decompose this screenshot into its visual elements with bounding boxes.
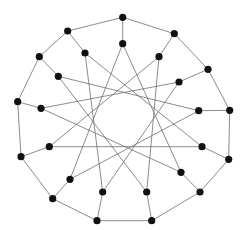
outer-node (93, 217, 100, 224)
nodes-layer (14, 14, 233, 225)
spoke-edge (97, 192, 103, 221)
outer-edge (174, 34, 208, 70)
spoke-edge (159, 34, 174, 57)
inner-node (177, 169, 184, 176)
outer-edge (152, 192, 200, 221)
outer-node (119, 14, 126, 21)
inner-star-edge (41, 108, 181, 172)
spoke-edge (202, 147, 229, 160)
outer-edge (208, 69, 230, 110)
spoke-edge (53, 179, 70, 198)
outer-node (226, 107, 233, 114)
inner-node (99, 188, 106, 195)
outer-node (148, 217, 155, 224)
outer-edge (200, 159, 229, 192)
outer-edge (39, 31, 67, 57)
outer-edge (68, 17, 123, 31)
outer-node (196, 188, 203, 195)
spoke-edge (181, 172, 200, 192)
outer-node (64, 27, 71, 34)
outer-node (171, 30, 178, 37)
spoke-edge (18, 102, 41, 109)
inner-node (66, 176, 73, 183)
inner-star-edge (147, 57, 159, 192)
inner-star-edge (103, 82, 179, 192)
outer-node (14, 98, 21, 105)
inner-star-edge (41, 82, 179, 108)
outer-edge (123, 17, 175, 33)
inner-star-edge (70, 44, 123, 180)
outer-edge (18, 102, 21, 157)
inner-node (119, 40, 126, 47)
inner-node (81, 49, 88, 56)
spoke-edge (179, 69, 208, 82)
inner-node (198, 143, 205, 150)
outer-node (49, 195, 56, 202)
outer-node (36, 53, 43, 60)
outer-edge (53, 199, 97, 221)
inner-node (46, 143, 53, 150)
inner-node (195, 107, 202, 114)
inner-node (175, 78, 182, 85)
spoke-edge (68, 31, 85, 53)
outer-node (17, 153, 24, 160)
graph-diagram (0, 0, 247, 230)
spoke-edge (21, 147, 49, 157)
outer-node (225, 156, 232, 163)
spoke-edge (39, 57, 58, 77)
outer-node (204, 66, 211, 73)
outer-edge (18, 57, 40, 102)
outer-edge (21, 157, 53, 199)
inner-node (155, 53, 162, 60)
inner-node (37, 105, 44, 112)
outer-edge (229, 110, 230, 159)
inner-star-edge (85, 53, 103, 192)
inner-star-edge (49, 57, 159, 147)
spoke-edge (147, 192, 152, 221)
inner-node (55, 73, 62, 80)
inner-node (143, 188, 150, 195)
